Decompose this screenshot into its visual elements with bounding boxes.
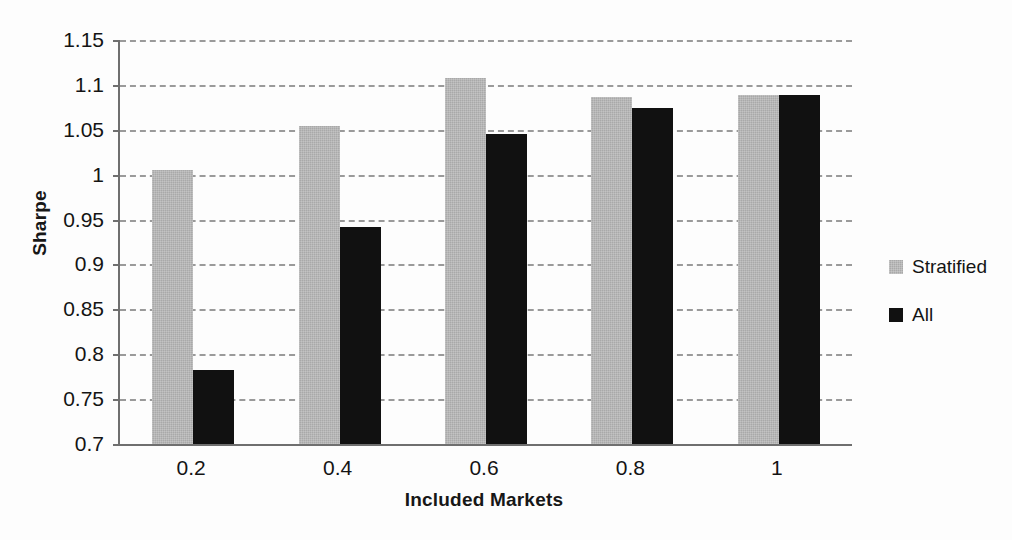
legend-swatch-all-icon bbox=[889, 308, 903, 322]
y-axis-tick-mark bbox=[113, 264, 120, 266]
x-axis-tick-label: 0.2 bbox=[177, 456, 206, 480]
bar-stratified-0.4 bbox=[299, 126, 340, 444]
y-axis-tick-mark bbox=[113, 40, 120, 42]
y-axis-tick-label: 0.95 bbox=[0, 208, 104, 232]
y-axis-tick-label: 0.85 bbox=[0, 297, 104, 321]
y-axis-tick-label: 0.75 bbox=[0, 387, 104, 411]
y-axis-tick-mark bbox=[113, 175, 120, 177]
y-axis-tick-mark bbox=[113, 220, 120, 222]
x-axis-tick-label: 0.6 bbox=[469, 456, 498, 480]
bar-stratified-0.2 bbox=[152, 170, 193, 444]
bar-stratified-0.6 bbox=[445, 78, 486, 444]
gridline bbox=[120, 85, 852, 87]
y-axis-tick-label: 1.1 bbox=[0, 73, 104, 97]
bar-all-0.4 bbox=[340, 227, 381, 444]
bar-all-0.8 bbox=[632, 108, 673, 444]
y-axis-tick-mark bbox=[113, 309, 120, 311]
bar-all-1 bbox=[779, 95, 820, 444]
chart-figure: Sharpe 1.151.11.0510.950.90.850.80.750.7… bbox=[0, 0, 1012, 540]
plot-area bbox=[118, 40, 852, 446]
y-axis-tick-label: 0.9 bbox=[0, 252, 104, 276]
legend-item-all: All bbox=[889, 304, 987, 326]
x-axis-title: Included Markets bbox=[118, 489, 850, 511]
legend-swatch-stratified-icon bbox=[889, 260, 903, 274]
legend-label: Stratified bbox=[912, 256, 987, 278]
bar-stratified-1 bbox=[738, 95, 779, 444]
y-axis-tick-label: 0.8 bbox=[0, 342, 104, 366]
x-axis-tick-label: 0.4 bbox=[323, 456, 352, 480]
bar-all-0.6 bbox=[486, 134, 527, 444]
gridline bbox=[120, 40, 852, 42]
y-axis-tick-mark bbox=[113, 399, 120, 401]
legend-label: All bbox=[912, 304, 933, 326]
y-axis-tick-label: 1.15 bbox=[0, 28, 104, 52]
y-axis-tick-mark bbox=[113, 444, 120, 446]
y-axis-tick-label: 1.05 bbox=[0, 118, 104, 142]
y-axis-tick-mark bbox=[113, 85, 120, 87]
y-axis-tick-mark bbox=[113, 130, 120, 132]
legend-item-stratified: Stratified bbox=[889, 256, 987, 278]
bar-stratified-0.8 bbox=[591, 97, 632, 444]
y-axis-tick-label: 1 bbox=[0, 163, 104, 187]
x-axis-tick-label: 1 bbox=[771, 456, 783, 480]
y-axis-tick-mark bbox=[113, 354, 120, 356]
y-axis-tick-label: 0.7 bbox=[0, 432, 104, 456]
x-axis-tick-label: 0.8 bbox=[616, 456, 645, 480]
chart-legend: StratifiedAll bbox=[889, 256, 987, 352]
bar-all-0.2 bbox=[193, 370, 234, 444]
